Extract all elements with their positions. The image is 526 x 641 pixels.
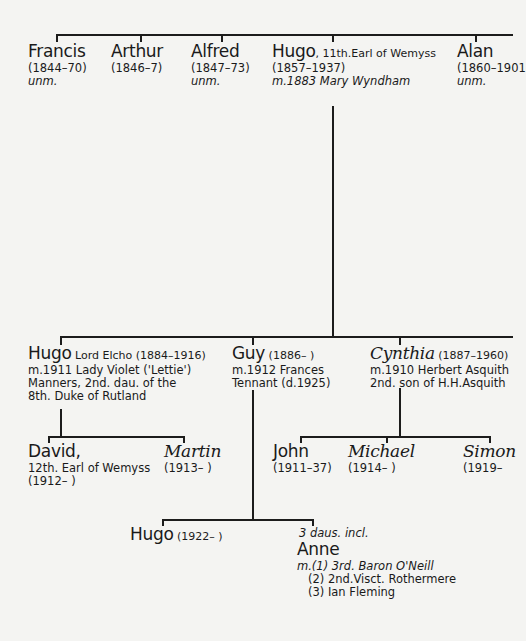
person-dates: (1847–73) <box>191 62 250 75</box>
person-dates: (1912– ) <box>28 475 150 488</box>
descent-line-guy <box>252 390 254 520</box>
person-david: David, 12th. Earl of Wemyss (1912– ) <box>28 442 150 488</box>
person-michael: Michael (1914– ) <box>348 442 415 475</box>
person-hugo-lord-elcho: Hugo Lord Elcho (1884–1916) m.1911 Lady … <box>28 344 206 403</box>
person-arthur: Arthur (1846–7) <box>111 42 163 75</box>
person-note: unm. <box>28 75 87 88</box>
person-name: Cynthia <box>370 343 435 363</box>
person-name: Alan <box>457 42 526 62</box>
person-simon: Simon (1919– <box>463 442 516 475</box>
person-note: unm. <box>457 75 526 88</box>
guy-children-bar <box>162 519 314 521</box>
person-marriage: m.1912 Frances <box>232 364 330 377</box>
person-name: David, <box>28 442 150 462</box>
person-dates: (1922– ) <box>174 530 223 543</box>
gen1-sibling-bar <box>56 34 513 36</box>
person-martin: Martin (1913– ) <box>164 442 221 475</box>
person-marriage-cont: Tennant (d.1925) <box>232 377 330 390</box>
person-dates: (1857–1937) <box>272 62 436 75</box>
person-marriage-cont: 2nd. son of H.H.Asquith <box>370 377 509 390</box>
person-alfred: Alfred (1847–73) unm. <box>191 42 250 88</box>
person-guy: Guy (1886– ) m.1912 Frances Tennant (d.1… <box>232 344 330 390</box>
descent-line-hugo-elcho <box>60 409 62 437</box>
person-marriage-cont: Manners, 2nd. dau. of the <box>28 377 206 390</box>
person-title: (1887–1960) <box>435 349 509 362</box>
person-name: Anne <box>297 540 456 560</box>
tick-hugo11 <box>332 34 334 42</box>
person-dates: (1914– ) <box>348 462 415 475</box>
person-hugo-1922: Hugo (1922– ) <box>130 525 223 545</box>
person-name: Guy <box>232 343 265 363</box>
cynthia-children-bar <box>300 436 491 438</box>
person-marriage: m.1910 Herbert Asquith <box>370 364 509 377</box>
person-dates: (1919– <box>463 462 516 475</box>
person-francis: Francis (1844–70) unm. <box>28 42 87 88</box>
person-hugo-11th-earl: Hugo, 11th.Earl of Wemyss (1857–1937) m.… <box>272 42 436 88</box>
person-name: Alfred <box>191 42 250 62</box>
person-name: Michael <box>348 442 415 462</box>
person-dates: (1860–1901 <box>457 62 526 75</box>
person-dates: (1846–7) <box>111 62 163 75</box>
person-name: Simon <box>463 442 516 462</box>
descent-line-cynthia <box>399 388 401 437</box>
person-title: Lord Elcho (1884–1916) <box>72 349 206 362</box>
descent-line-hugo11 <box>332 106 334 337</box>
elcho-children-bar <box>48 436 185 438</box>
person-name: Hugo <box>130 524 174 544</box>
gen2-sibling-bar <box>60 336 513 338</box>
person-title: , 11th.Earl of Wemyss <box>316 47 436 60</box>
person-name: Hugo <box>272 41 316 61</box>
person-marriage: m.(1) 3rd. Baron O'Neill <box>297 560 456 573</box>
person-note: unm. <box>191 75 250 88</box>
person-dates: (1911–37) <box>273 462 332 475</box>
person-anne: 3 daus. incl. Anne m.(1) 3rd. Baron O'Ne… <box>297 527 456 599</box>
person-marriage: m.1883 Mary Wyndham <box>272 75 436 88</box>
tick-anne <box>312 519 314 526</box>
person-name: Martin <box>164 442 221 462</box>
person-john: John (1911–37) <box>273 442 332 475</box>
person-title: 12th. Earl of Wemyss <box>28 462 150 475</box>
person-dates: (1844–70) <box>28 62 87 75</box>
person-name: Francis <box>28 42 87 62</box>
person-name: Arthur <box>111 42 163 62</box>
person-title: (1886– ) <box>265 349 314 362</box>
person-marriage-cont: 8th. Duke of Rutland <box>28 390 206 403</box>
person-name: Hugo <box>28 343 72 363</box>
person-cynthia: Cynthia (1887–1960) m.1910 Herbert Asqui… <box>370 344 509 390</box>
person-marriage: (3) Ian Fleming <box>297 586 456 599</box>
person-alan: Alan (1860–1901 unm. <box>457 42 526 88</box>
person-name: John <box>273 442 332 462</box>
person-dates: (1913– ) <box>164 462 221 475</box>
person-marriage: m.1911 Lady Violet ('Lettie') <box>28 364 206 377</box>
